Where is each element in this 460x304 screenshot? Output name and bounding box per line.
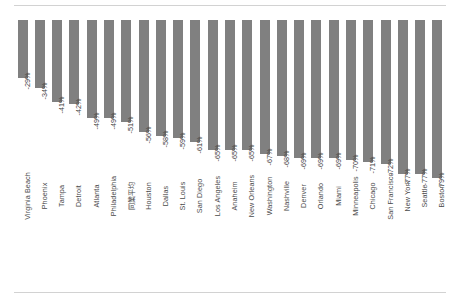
bar[interactable] bbox=[52, 20, 62, 102]
bar-slot[interactable]: -77% bbox=[411, 20, 428, 190]
bar-slot[interactable]: -69% bbox=[325, 20, 342, 190]
bar[interactable] bbox=[381, 20, 391, 164]
bar-value-label: -68% bbox=[282, 150, 291, 167]
bar-slot[interactable]: -69% bbox=[308, 20, 325, 190]
bar[interactable] bbox=[87, 20, 97, 118]
bar[interactable] bbox=[156, 20, 166, 136]
bar[interactable] bbox=[225, 20, 235, 150]
bar-value-label: -65% bbox=[247, 144, 256, 161]
category-label: Phoenix bbox=[40, 183, 49, 210]
bar[interactable] bbox=[346, 20, 356, 160]
bar[interactable] bbox=[18, 20, 28, 78]
bar-slot[interactable]: -72% bbox=[377, 20, 394, 190]
category-label-slot[interactable]: Phoenix bbox=[31, 196, 48, 288]
top-divider bbox=[14, 5, 446, 6]
category-label: Seattle bbox=[420, 184, 429, 207]
bar-value-label: -49% bbox=[109, 112, 118, 129]
bar-slot[interactable]: -65% bbox=[239, 20, 256, 190]
bar-slot[interactable]: -42% bbox=[66, 20, 83, 190]
category-label: Virginia Beach bbox=[23, 172, 32, 220]
bar-slot[interactable]: -68% bbox=[273, 20, 290, 190]
bar[interactable] bbox=[104, 20, 114, 118]
category-label-slot[interactable]: San Francisco bbox=[377, 196, 394, 288]
bar[interactable] bbox=[208, 20, 218, 150]
bar[interactable] bbox=[329, 20, 339, 158]
category-label: Dallas bbox=[161, 186, 170, 207]
category-label-slot[interactable]: Chicago bbox=[360, 196, 377, 288]
bar[interactable] bbox=[69, 20, 79, 104]
bar-slot[interactable]: -79% bbox=[429, 20, 446, 190]
bar-slot[interactable]: -65% bbox=[204, 20, 221, 190]
bar[interactable] bbox=[190, 20, 200, 142]
category-label-slot[interactable]: Nashville bbox=[273, 196, 290, 288]
category-label: San Diego bbox=[195, 179, 204, 213]
category-label: New Orleans bbox=[247, 175, 256, 218]
category-label-slot[interactable]: New York bbox=[394, 196, 411, 288]
bar[interactable] bbox=[277, 20, 287, 156]
bar[interactable] bbox=[139, 20, 149, 132]
bar-slot[interactable]: -56% bbox=[135, 20, 152, 190]
category-label-slot[interactable]: Denver bbox=[291, 196, 308, 288]
bar-value-label: -70% bbox=[351, 154, 360, 171]
bar[interactable] bbox=[173, 20, 183, 138]
bar-value-label: -51% bbox=[126, 116, 135, 133]
bar-slot[interactable]: -29% bbox=[14, 20, 31, 190]
bar-value-label: -65% bbox=[213, 144, 222, 161]
category-label-slot[interactable]: Orlando bbox=[308, 196, 325, 288]
category-label-slot[interactable]: Boston bbox=[429, 196, 446, 288]
bar[interactable] bbox=[294, 20, 304, 158]
bar-slot[interactable]: -61% bbox=[187, 20, 204, 190]
bar[interactable] bbox=[242, 20, 252, 150]
bar[interactable] bbox=[363, 20, 373, 162]
category-label-slot[interactable]: Philadelphia bbox=[100, 196, 117, 288]
category-label: Houston bbox=[144, 182, 153, 209]
bar[interactable] bbox=[398, 20, 408, 174]
category-label-slot[interactable]: Detroit bbox=[66, 196, 83, 288]
category-label-slot[interactable]: 同業平均 bbox=[118, 196, 135, 288]
bar-slot[interactable]: -49% bbox=[100, 20, 117, 190]
category-label: Los Angeles bbox=[213, 176, 222, 216]
bar-slot[interactable]: -71% bbox=[360, 20, 377, 190]
bar-slot[interactable]: -34% bbox=[31, 20, 48, 190]
category-label-slot[interactable]: San Diego bbox=[187, 196, 204, 288]
bar-slot[interactable]: -69% bbox=[291, 20, 308, 190]
category-label-slot[interactable]: Tampa bbox=[49, 196, 66, 288]
category-label-slot[interactable]: Minneapolis bbox=[342, 196, 359, 288]
bar-value-label: -69% bbox=[316, 152, 325, 169]
category-label-slot[interactable]: Virginia Beach bbox=[14, 196, 31, 288]
bar-slot[interactable]: -41% bbox=[49, 20, 66, 190]
bar-value-label: -58% bbox=[161, 130, 170, 147]
category-label-slot[interactable]: Los Angeles bbox=[204, 196, 221, 288]
bar-slot[interactable]: -65% bbox=[221, 20, 238, 190]
category-label: St. Louis bbox=[178, 182, 187, 211]
bar-slot[interactable]: -70% bbox=[342, 20, 359, 190]
bar[interactable] bbox=[121, 20, 131, 122]
bar-slot[interactable]: -77% bbox=[394, 20, 411, 190]
bar[interactable] bbox=[35, 20, 45, 88]
bar-slot[interactable]: -67% bbox=[256, 20, 273, 190]
bar-slot[interactable]: -49% bbox=[83, 20, 100, 190]
category-label: Detroit bbox=[74, 185, 83, 207]
category-label-slot[interactable]: Seattle bbox=[411, 196, 428, 288]
plot-area: -29%-34%-41%-42%-49%-49%-51%-56%-58%-59%… bbox=[14, 20, 446, 190]
bar[interactable] bbox=[432, 20, 442, 178]
category-label-slot[interactable]: Atlanta bbox=[83, 196, 100, 288]
bar-value-label: -71% bbox=[368, 156, 377, 173]
category-label-slot[interactable]: St. Louis bbox=[170, 196, 187, 288]
category-label: Orlando bbox=[316, 183, 325, 209]
bar[interactable] bbox=[260, 20, 270, 154]
bar[interactable] bbox=[311, 20, 321, 158]
bar[interactable] bbox=[415, 20, 425, 174]
bar-slot[interactable]: -51% bbox=[118, 20, 135, 190]
bar-value-label: -41% bbox=[57, 96, 66, 113]
category-label-slot[interactable]: Houston bbox=[135, 196, 152, 288]
category-label-slot[interactable]: Miami bbox=[325, 196, 342, 288]
category-label-slot[interactable]: Dallas bbox=[152, 196, 169, 288]
category-label-slot[interactable]: New Orleans bbox=[239, 196, 256, 288]
bar-slot[interactable]: -59% bbox=[170, 20, 187, 190]
bar-slot[interactable]: -58% bbox=[152, 20, 169, 190]
bar-value-label: -77% bbox=[420, 168, 429, 185]
category-label-slot[interactable]: Anaheim bbox=[221, 196, 238, 288]
category-label: Nashville bbox=[282, 181, 291, 211]
category-label-slot[interactable]: Washington bbox=[256, 196, 273, 288]
